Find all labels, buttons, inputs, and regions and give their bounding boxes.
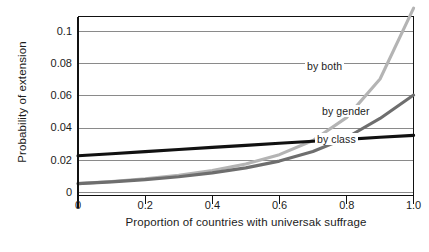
series-annotation-by-both: by both — [305, 60, 344, 72]
series-annotation-by-class: by class — [315, 133, 358, 145]
x-tick-label: 0.2 — [125, 199, 165, 211]
x-tick-label: 0 — [58, 199, 98, 211]
x-tick-label: 0.6 — [260, 199, 300, 211]
x-tick-label: 1.0 — [394, 199, 429, 211]
x-tick-label: 0.8 — [327, 199, 367, 211]
x-axis-label: Proportion of countries with universak s… — [78, 216, 414, 228]
plot-area — [0, 0, 429, 252]
x-tick-label: 0.4 — [192, 199, 232, 211]
series-annotation-by-gender: by gender — [320, 105, 372, 117]
chart-figure: Probability of extension 0.1 0.08 0.06 0… — [0, 0, 429, 252]
series-line-by-class — [78, 135, 414, 155]
